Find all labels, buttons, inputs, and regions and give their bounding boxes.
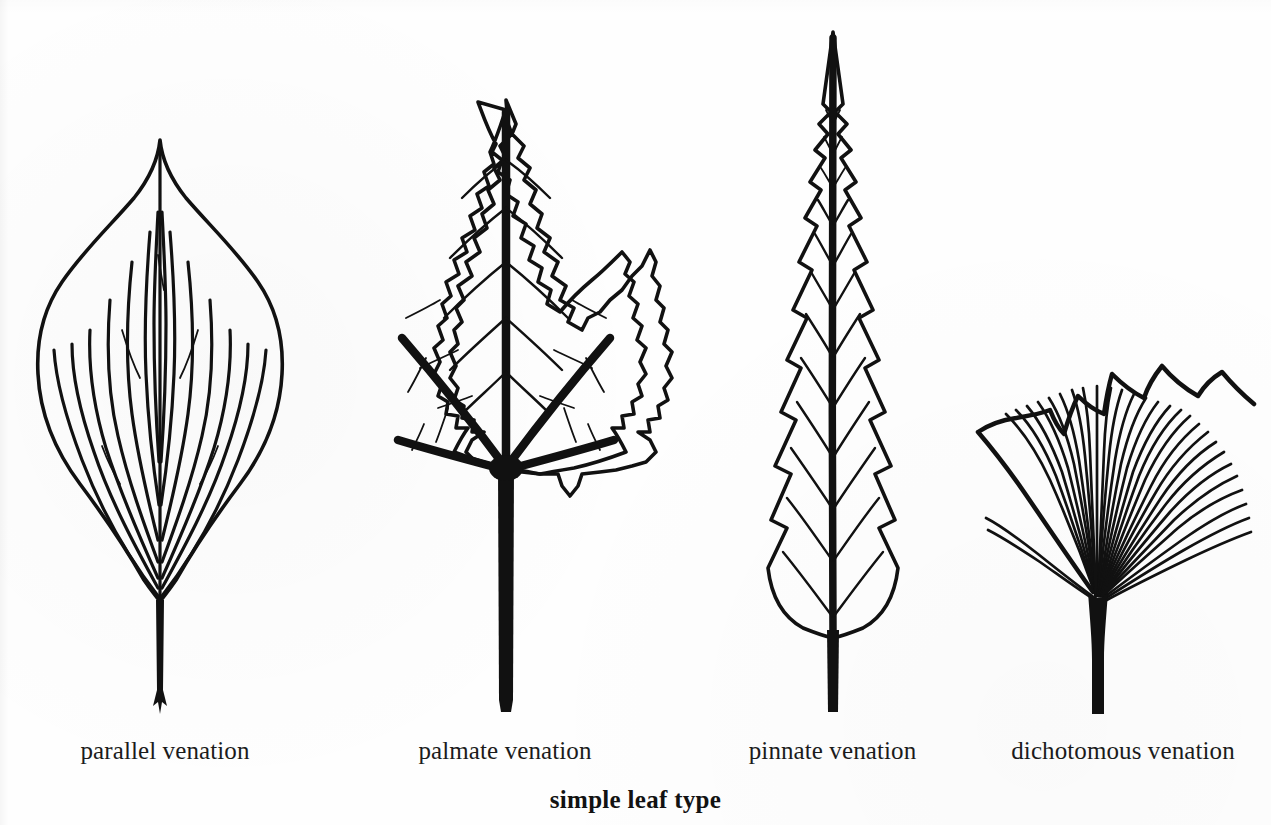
panel-labels-row: parallel venation palmate venation pinna… [0,735,1271,775]
leaf-venation-figure: parallel venation palmate venation pinna… [0,0,1271,825]
label-palmate-venation: palmate venation [325,735,685,767]
figure-caption: simple leaf type [0,786,1271,814]
label-parallel-venation: parallel venation [0,735,330,767]
pinnate-petiole [827,630,839,712]
palmate-petiole [489,455,523,712]
parallel-petiole [153,600,167,714]
label-dichotomous-venation: dichotomous venation [975,735,1271,767]
leaf-diagram-pinnate [735,0,935,740]
dichotomous-petiole [1088,592,1108,714]
pinnate-midrib [832,38,833,636]
leaf-diagram-dichotomous [950,0,1271,740]
label-pinnate-venation: pinnate venation [690,735,975,767]
leaf-diagram-parallel [10,0,310,740]
leaf-diagram-palmate [320,0,690,740]
palmate-midrib-thick [505,112,506,470]
